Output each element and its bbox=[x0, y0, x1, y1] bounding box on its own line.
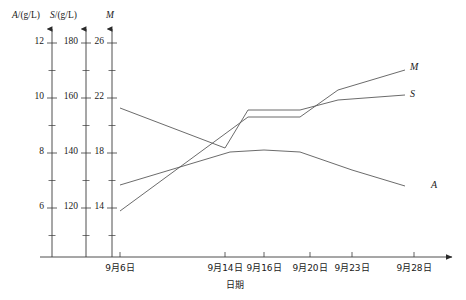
axis-m-tick-22: 22 bbox=[82, 91, 104, 101]
series-line-a bbox=[120, 150, 405, 186]
chart-figure: A/(g/L) S/(g/L) M 12 10 8 6 180 160 140 … bbox=[0, 0, 466, 300]
axis-a bbox=[47, 29, 57, 257]
axis-m bbox=[107, 29, 117, 257]
axis-s-header: S/(g/L) bbox=[50, 10, 77, 20]
axis-a-tick-10: 10 bbox=[14, 91, 44, 101]
axis-s bbox=[81, 29, 91, 257]
series-label-s: S bbox=[410, 88, 415, 99]
axis-m-header: M bbox=[106, 10, 114, 20]
x-axis-title: 日期 bbox=[215, 278, 255, 291]
x-tick-label-4: 9月23日 bbox=[320, 261, 384, 274]
axis-m-tick-26: 26 bbox=[82, 36, 104, 46]
x-tick-label-0: 9月6日 bbox=[90, 261, 150, 274]
axis-a-header: A/(g/L) bbox=[12, 10, 40, 20]
axis-a-tick-8: 8 bbox=[14, 146, 44, 156]
axis-a-tick-12: 12 bbox=[14, 36, 44, 46]
series-label-m: M bbox=[410, 61, 418, 72]
axis-a-tick-6: 6 bbox=[14, 201, 44, 211]
series-line-m bbox=[120, 70, 405, 211]
x-tick-label-5: 9月28日 bbox=[382, 261, 446, 274]
axis-s-tick-140: 140 bbox=[48, 146, 78, 156]
axis-s-tick-160: 160 bbox=[48, 91, 78, 101]
axis-x bbox=[40, 252, 452, 257]
axis-m-tick-14: 14 bbox=[82, 201, 104, 211]
axis-s-tick-180: 180 bbox=[48, 36, 78, 46]
series-line-s bbox=[120, 95, 405, 148]
axis-s-tick-120: 120 bbox=[48, 201, 78, 211]
axis-m-tick-18: 18 bbox=[82, 146, 104, 156]
series-label-a: A bbox=[431, 179, 437, 190]
